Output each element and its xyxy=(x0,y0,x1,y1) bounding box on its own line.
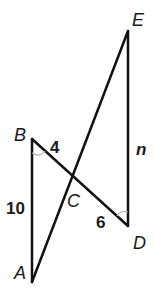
side-label-cd: 6 xyxy=(96,213,105,232)
segment-bd xyxy=(32,139,128,226)
vertex-label-c: C xyxy=(67,191,81,211)
vertex-label-a: A xyxy=(13,263,26,283)
vertex-label-e: E xyxy=(132,10,145,30)
geometry-diagram: E B C D A 4 10 6 n xyxy=(0,0,155,291)
angle-mark-d xyxy=(117,212,128,217)
side-label-bc: 4 xyxy=(50,138,60,157)
vertex-label-b: B xyxy=(14,125,26,145)
segment-ae xyxy=(32,31,128,282)
angle-mark-b xyxy=(32,151,45,155)
vertex-label-d: D xyxy=(133,233,146,253)
side-label-ab: 10 xyxy=(6,199,25,218)
side-label-de: n xyxy=(136,140,146,159)
